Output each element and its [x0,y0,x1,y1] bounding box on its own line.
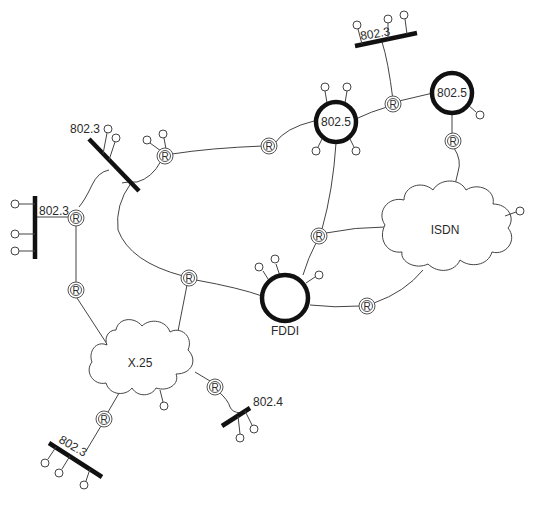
host-icon [476,111,484,119]
lan-bottom-left-label: 802.3 [57,432,90,459]
router[interactable]: R [311,228,327,244]
router[interactable]: R [68,210,84,226]
host-icon [143,136,151,144]
ring-fddi: FDDI [255,255,323,338]
host-icon [11,247,19,255]
cloud-isdn-label: ISDN [431,223,460,237]
link-router-fddi [196,280,262,296]
host-icon [160,402,168,410]
ring-center-802-5: 802.5 [312,83,360,155]
router[interactable]: R [157,148,173,164]
host-icon [41,459,49,467]
host-icon [11,200,19,208]
svg-text:R: R [363,301,370,312]
host-icon [315,271,323,279]
svg-text:R: R [449,136,456,147]
link-router-x25 [77,298,107,344]
link-router-isdn-c [374,270,423,303]
host-icon [11,230,19,238]
lan-bottom-802-4: 802.4 [222,395,283,442]
host-icon [80,481,88,489]
svg-text:R: R [72,213,79,224]
router[interactable]: R [207,379,223,395]
host-icon [236,434,244,442]
lan-bottom-left-802-3: 802.3 [41,432,102,489]
router[interactable]: R [96,411,112,427]
ring-right-802-5: 802.5 [432,73,484,119]
host-icon [55,469,63,477]
router[interactable]: R [385,96,401,112]
svg-text:R: R [315,231,322,242]
lan-upper-left-label: 802.3 [70,122,100,136]
link-ul-lan-router-mid [118,183,183,276]
link-router-fddi-b [303,243,316,275]
cloud-x25: X.25 [89,320,193,410]
lan-left-label: 802.3 [39,204,69,218]
link-ring-center-router [275,121,314,143]
svg-text:R: R [100,414,107,425]
lan-bottom-label: 802.4 [253,395,283,409]
router[interactable]: R [445,133,461,149]
host-icon [343,83,351,91]
link-router-ring-right [399,93,433,101]
link-fddi-router [310,305,360,307]
link-router-isdn [326,227,385,233]
router[interactable]: R [181,270,197,286]
host-icon [384,15,392,23]
svg-text:R: R [389,99,396,110]
host-icon [312,147,320,155]
link-ring-center-router-b [322,143,336,229]
svg-text:R: R [185,273,192,284]
svg-text:R: R [72,285,79,296]
link-ul-lan-router-left [79,170,109,207]
link-top-lan-router [382,42,393,100]
host-icon [250,425,258,433]
lan-upper-left-802-3: 802.3 [70,122,139,191]
link-router-x25-b [178,285,187,331]
ring-right-label: 802.5 [437,86,467,100]
network-diagram-svg: ISDN X.25 802.3 802.3 [0,0,536,506]
link-router-router-top [172,146,263,154]
svg-text:R: R [211,382,218,393]
cloud-x25-label: X.25 [128,356,153,370]
host-icon [159,130,167,138]
host-icon [271,255,279,263]
link-x25-router-bottom [195,372,210,381]
network-diagram: ISDN X.25 802.3 802.3 [0,0,536,506]
router[interactable]: R [68,282,84,298]
cloud-isdn: ISDN [382,181,524,270]
host-icon [353,21,361,29]
link-router-ring-center [358,107,387,118]
ring-fddi-label: FDDI [271,324,299,338]
lan-left-802-3: 802.3 [11,196,69,259]
svg-text:R: R [161,151,168,162]
host-icon [255,263,263,271]
svg-text:R: R [265,141,272,152]
lan-top-802-3: 802.3 [353,11,417,46]
ring-center-label: 802.5 [321,115,351,129]
router[interactable]: R [261,138,277,154]
host-icon [321,83,329,91]
host-icon [104,125,112,133]
router[interactable]: R [359,298,375,314]
host-icon [516,207,524,215]
host-icon [400,11,408,19]
link-router-802-4 [219,392,240,413]
host-icon [352,147,360,155]
host-icon [112,134,120,142]
